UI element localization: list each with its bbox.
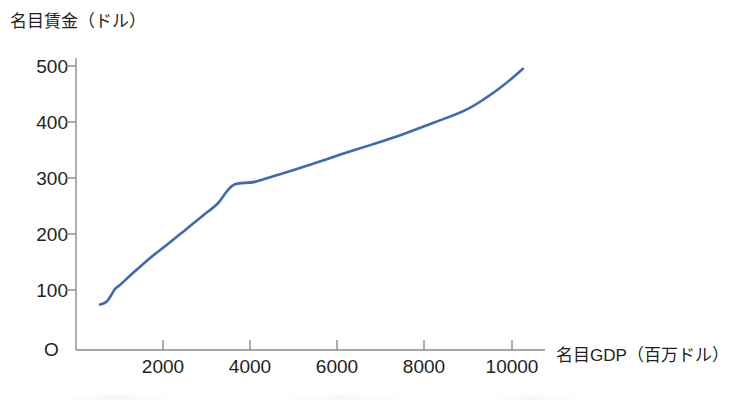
chart-figure: 名目賃金（ドル） 名目GDP（百万ドル） O 500 400 300 200 1… [0, 0, 737, 400]
x-tick-marks [163, 340, 512, 350]
plot-area [0, 0, 737, 400]
page-edge-artifact [0, 395, 737, 400]
y-tick-marks [66, 66, 76, 290]
data-series-line [100, 69, 523, 305]
